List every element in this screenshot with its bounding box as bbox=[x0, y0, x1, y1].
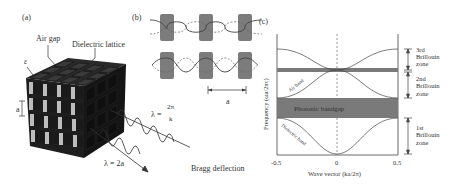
y-axis-label: Frequency (ωa/2πc) bbox=[262, 78, 270, 130]
zone2-line1: 2nd bbox=[416, 75, 427, 82]
zone1-line3: zone bbox=[416, 139, 428, 146]
svg-text:1stBrillouinzone: 1stBrillouinzone bbox=[416, 124, 440, 146]
zone2-line2: Brillouin bbox=[416, 82, 440, 89]
standing-wave-diagram bbox=[130, 0, 270, 110]
x-tick-left: -0.5 bbox=[271, 159, 281, 166]
zone1-line1: 1st bbox=[416, 124, 424, 131]
svg-text:3rdBrillouinzone: 3rdBrillouinzone bbox=[416, 46, 440, 67]
bragg-deflection-label: Bragg deflection bbox=[191, 165, 245, 173]
x-tick-mid: 0 bbox=[335, 159, 338, 166]
x-axis-label: Wave vector (ka/2π) bbox=[308, 170, 361, 178]
zone2-line3: zone bbox=[416, 90, 428, 97]
x-tick-right: 0.5 bbox=[393, 159, 401, 166]
zone3-line1: 3rd bbox=[416, 46, 425, 53]
zone3-line2: Brillouin bbox=[416, 53, 440, 60]
band-diagram: Air band Dielectric band Photonic bandga… bbox=[250, 0, 451, 186]
zone3-line3: zone bbox=[416, 60, 428, 67]
svg-text:2ndBrillouinzone: 2ndBrillouinzone bbox=[416, 75, 440, 97]
panel-b: (b) a bbox=[130, 0, 270, 110]
zone1-line2: Brillouin bbox=[416, 131, 440, 138]
dielectric-band-label: Dielectric band bbox=[280, 123, 307, 147]
panel-c: (c) Air band Dielectric band Photonic ba… bbox=[250, 0, 451, 186]
bandgap-label: Photonic bandgap bbox=[294, 105, 345, 113]
third-band bbox=[277, 49, 398, 70]
